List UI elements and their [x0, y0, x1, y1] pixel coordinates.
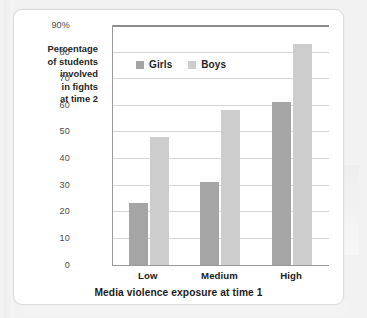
bar-girls-high	[272, 102, 291, 264]
y-axis-tick-label: 90%	[30, 20, 70, 30]
bar-boys-high	[293, 44, 312, 265]
x-axis-tick-label: High	[255, 270, 327, 281]
legend-swatch-icon	[136, 61, 144, 69]
x-axis-line	[113, 265, 329, 267]
legend-label: Boys	[201, 59, 226, 70]
legend-item-boys: Boys	[188, 59, 226, 70]
y-axis-tick-label: 50	[30, 126, 70, 136]
y-axis-tick-label: 40	[30, 153, 70, 163]
legend-swatch-icon	[188, 61, 196, 69]
y-axis-tick-label: 0	[30, 260, 70, 270]
y-axis-tick-label: 60	[30, 100, 70, 110]
scan-artifact-right-edge	[359, 40, 365, 285]
x-axis-title: Media violence exposure at time 1	[14, 287, 343, 298]
y-axis-title-line-2: of students	[20, 56, 98, 69]
y-axis-tick-label: 80	[30, 47, 70, 57]
chart-legend: GirlsBoys	[136, 59, 226, 70]
scan-artifact-left	[4, 0, 13, 318]
legend-label: Girls	[149, 59, 172, 70]
bar-boys-low	[150, 137, 169, 265]
y-axis-tick-label: 70	[30, 73, 70, 83]
y-axis-tick-label: 10	[30, 233, 70, 243]
bar-group	[256, 26, 328, 265]
y-axis-tick-label: 20	[30, 206, 70, 216]
bar-girls-medium	[200, 182, 219, 264]
x-axis-tick-label: Low	[112, 270, 184, 281]
bar-girls-low	[129, 203, 148, 264]
legend-item-girls: Girls	[136, 59, 172, 70]
x-axis-tick-label: Medium	[184, 270, 256, 281]
y-axis-tick-label: 30	[30, 180, 70, 190]
bar-chart: Percentage of students involved in fight…	[14, 10, 343, 304]
figure-card: Percentage of students involved in fight…	[13, 9, 344, 305]
bar-boys-medium	[221, 110, 240, 264]
